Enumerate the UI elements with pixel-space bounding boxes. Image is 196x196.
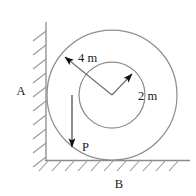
- force-label-p: P: [82, 140, 89, 154]
- ground-support: [39, 160, 190, 171]
- ground-hatching: [39, 160, 179, 171]
- outer-radius-label: 4 m: [78, 51, 97, 65]
- wall-contact-label-a: A: [16, 84, 25, 98]
- inner-radius-label: 2 m: [138, 89, 157, 103]
- ground-contact-label-b: B: [115, 177, 123, 191]
- mechanics-diagram: 4 m 2 m A B P: [0, 0, 196, 196]
- wall-hatching: [33, 31, 46, 167]
- inner-radius-leader: [112, 74, 132, 95]
- diagram-canvas: 4 m 2 m A B P: [0, 0, 196, 196]
- wall-support: [33, 22, 46, 167]
